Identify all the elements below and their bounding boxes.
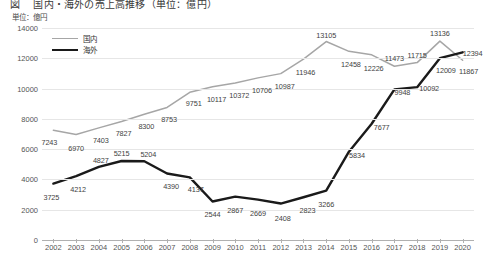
x-axis-tick [144, 239, 145, 243]
data-label-domestic: 12458 [341, 60, 361, 69]
data-label-domestic: 7243 [41, 138, 57, 147]
x-axis-tick-label: 2011 [250, 243, 266, 252]
x-axis-tick-label: 2008 [181, 243, 198, 252]
x-axis-tick [213, 239, 214, 243]
x-axis-tick-label: 2015 [341, 243, 358, 252]
data-label-overseas: 2823 [300, 206, 316, 215]
x-axis-tick-label: 2005 [113, 243, 130, 252]
x-axis-tick-label: 2007 [159, 243, 176, 252]
data-label-domestic: 8300 [138, 122, 154, 131]
data-label-domestic: 11715 [408, 51, 427, 60]
x-axis-tick [235, 239, 236, 243]
data-label-overseas: 4390 [163, 182, 179, 191]
data-label-domestic: 12226 [364, 64, 384, 73]
x-axis-tick-label: 2019 [432, 243, 449, 252]
x-axis-tick [440, 239, 441, 243]
x-axis-tick-label: 2020 [454, 243, 471, 252]
data-label-domestic: 9751 [186, 99, 202, 108]
data-label-domestic: 8753 [161, 115, 177, 124]
x-axis-tick-label: 2016 [363, 243, 380, 252]
x-axis-tick [122, 239, 123, 243]
x-axis-tick [417, 239, 418, 243]
data-label-overseas: 2867 [227, 206, 243, 215]
data-label-overseas: 5215 [114, 149, 130, 158]
data-label-domestic: 7403 [93, 136, 109, 145]
x-axis-tick-label: 2018 [409, 243, 426, 252]
data-label-domestic: 7827 [116, 129, 132, 138]
x-axis-tick [303, 239, 304, 243]
y-axis-labels: 02000400060008000100001200014000 [0, 28, 38, 240]
gridline [42, 119, 474, 120]
x-axis-tick [349, 239, 350, 243]
x-axis-tick-label: 2017 [386, 243, 403, 252]
x-axis-tick [76, 239, 77, 243]
data-label-overseas: 12009 [436, 66, 456, 75]
data-label-domestic: 13136 [430, 29, 450, 38]
data-label-domestic: 10987 [275, 82, 295, 91]
data-label-domestic: 10117 [207, 95, 226, 104]
x-axis-tick [53, 239, 54, 243]
y-axis-tick-label: 4000 [4, 175, 38, 184]
data-label-overseas: 12394 [463, 49, 483, 58]
plot-area: 7243697074037827830087539751101171037210… [42, 28, 474, 240]
x-axis-tick [326, 239, 327, 243]
data-label-overseas: 4212 [70, 185, 86, 194]
x-axis-tick-label: 2004 [90, 243, 107, 252]
data-label-domestic: 11473 [385, 54, 404, 63]
x-axis-tick [372, 239, 373, 243]
y-axis-tick-label: 8000 [4, 114, 38, 123]
unit-label: 単位：億円 [12, 11, 47, 22]
x-axis-tick-label: 2010 [227, 243, 244, 252]
gridline [42, 149, 474, 150]
gridline [42, 179, 474, 180]
y-axis-tick-label: 14000 [4, 24, 38, 33]
y-axis-tick-label: 0 [4, 236, 38, 245]
data-label-overseas: 10092 [419, 84, 439, 93]
gridline [42, 28, 474, 29]
y-axis-tick-label: 2000 [4, 205, 38, 214]
x-axis-labels: 2002200320042005200620072008200920102011… [42, 243, 474, 259]
data-label-domestic: 6970 [68, 144, 84, 153]
data-label-domestic: 13105 [316, 31, 336, 40]
data-label-overseas: 7677 [374, 123, 390, 132]
x-axis-tick [394, 239, 395, 243]
x-axis-tick-label: 2003 [68, 243, 85, 252]
chart-figure: 図 国内・海外の売上高推移（単位：億円） 単位：億円 国内 海外 0200040… [0, 0, 485, 263]
data-label-domestic: 11867 [459, 67, 478, 76]
series-line-overseas [53, 52, 462, 203]
data-label-domestic: 11946 [296, 68, 315, 77]
x-axis-tick [99, 239, 100, 243]
data-label-overseas: 2669 [250, 209, 266, 218]
data-label-overseas: 4137 [188, 185, 204, 194]
x-axis-tick [281, 239, 282, 243]
x-axis-tick-label: 2012 [272, 243, 289, 252]
data-label-overseas: 9948 [394, 88, 410, 97]
x-axis-tick [463, 239, 464, 243]
y-axis-tick-label: 6000 [4, 145, 38, 154]
x-axis-tick [190, 239, 191, 243]
y-axis-tick-label: 10000 [4, 84, 38, 93]
x-axis-tick [167, 239, 168, 243]
data-label-overseas: 5834 [349, 151, 365, 160]
data-label-overseas: 2408 [275, 214, 291, 223]
x-axis-tick-label: 2002 [45, 243, 62, 252]
data-label-overseas: 5204 [140, 150, 156, 159]
data-label-overseas: 2544 [205, 210, 221, 219]
x-axis-tick-label: 2006 [136, 243, 153, 252]
x-axis-tick-label: 2013 [295, 243, 312, 252]
data-label-overseas: 3725 [43, 193, 59, 202]
x-axis-tick-label: 2014 [318, 243, 335, 252]
x-axis-tick-label: 2009 [204, 243, 221, 252]
data-label-domestic: 10372 [229, 91, 249, 100]
x-axis-tick [258, 239, 259, 243]
chart-title: 図 国内・海外の売上高推移（単位：億円） [10, 0, 217, 11]
y-axis-tick-label: 12000 [4, 54, 38, 63]
data-label-domestic: 10706 [252, 86, 272, 95]
data-label-overseas: 4827 [93, 156, 109, 165]
data-label-overseas: 3266 [318, 200, 334, 209]
